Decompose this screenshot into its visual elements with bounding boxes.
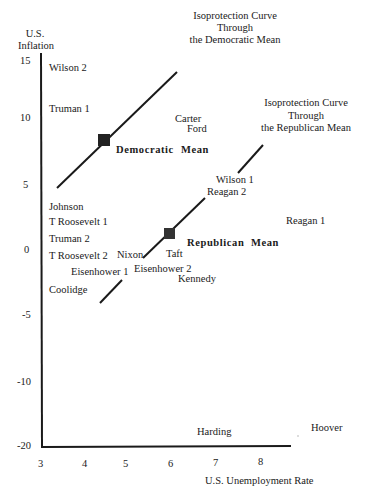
point-label: Hoover [311, 422, 343, 434]
point-label: Coolidge [49, 284, 88, 296]
dem-curve-label-line3: the Democratic Mean [180, 34, 290, 46]
point-label: Nixon [117, 249, 143, 261]
republican-mean-marker [164, 228, 175, 239]
y-tick-0: 0 [24, 244, 29, 256]
y-tick-neg5: -5 [22, 309, 31, 321]
x-tick-4: 4 [82, 458, 87, 470]
y-tick-neg10: -10 [17, 376, 31, 388]
point-label: Reagan 1 [286, 215, 325, 227]
x-tick-8: 8 [258, 456, 263, 468]
point-label: Reagan 2 [207, 186, 246, 198]
point-label: Wilson 1 [216, 174, 254, 186]
y-axis [41, 53, 42, 448]
dem-curve-label-line2: Through [180, 22, 290, 34]
point-label: T Roosevelt 1 [49, 216, 108, 228]
rep-mean-label-word2: Mean [251, 237, 279, 249]
rep-curve-label-line1: Isoprotection Curve [248, 97, 364, 109]
x-tick-5: 5 [123, 458, 128, 470]
republican-isoprotection-curve-upper [238, 145, 263, 173]
x-tick-6: 6 [168, 458, 173, 470]
y-tick-5: 5 [23, 179, 28, 191]
point-label: Ford [187, 123, 207, 135]
democratic-mean-marker [98, 134, 110, 146]
x-axis [42, 446, 291, 447]
y-tick-10: 10 [20, 112, 31, 124]
point-label: T Roosevelt 2 [49, 250, 108, 262]
rep-mean-label-word1: Republican [187, 237, 244, 249]
x-tick-7: 7 [213, 457, 218, 469]
republican-isoprotection-curve-lower [100, 280, 122, 303]
point-label: Truman 2 [49, 233, 90, 245]
rep-curve-label-line3: the Republican Mean [248, 122, 364, 134]
point-label: Truman 1 [49, 103, 90, 115]
y-tick-neg20: -20 [17, 440, 31, 452]
y-axis-title-line2: Inflation [14, 40, 58, 52]
y-axis-title-line1: U.S. [20, 28, 50, 40]
x-axis-title: U.S. Unemployment Rate [205, 475, 314, 487]
point-label: Johnson [49, 201, 83, 213]
point-label: Taft [166, 248, 183, 260]
rep-curve-label-line2: Through [248, 110, 364, 122]
dem-mean-label-word1: Democratic [116, 144, 174, 156]
y-tick-15: 15 [20, 55, 31, 67]
democratic-isoprotection-curve [57, 72, 177, 188]
point-label: Kennedy [178, 273, 216, 285]
point-label: Harding [197, 426, 231, 438]
point-label: Eisenhower 1 [71, 266, 128, 278]
dem-mean-label-word2: Mean [181, 144, 209, 156]
dem-curve-label-line1: Isoprotection Curve [180, 10, 290, 22]
x-tick-3: 3 [38, 458, 43, 470]
point-label: Wilson 2 [49, 62, 87, 74]
